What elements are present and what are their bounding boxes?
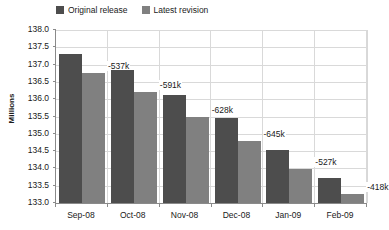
- x-axis: Sep-08Oct-08Nov-08Dec-08Jan-09Feb-09: [55, 203, 367, 230]
- y-tick-label: 138.0: [7, 24, 49, 35]
- bar-original-release: [318, 178, 341, 203]
- bar-original-release: [163, 95, 186, 203]
- x-tick-mark: [366, 203, 367, 207]
- x-axis-label: Sep-08: [55, 210, 107, 221]
- bar-group: -591k: [108, 30, 160, 203]
- legend-label-latest-revision: Latest revision: [154, 6, 209, 15]
- chart-legend: Original release Latest revision: [56, 3, 208, 17]
- bar-group: -418k: [315, 30, 367, 203]
- legend-swatch-latest-revision: [142, 6, 150, 14]
- y-tick-label: 137.5: [7, 41, 49, 52]
- bar-latest-revision: [186, 117, 209, 204]
- y-tick-label: 134.0: [7, 162, 49, 173]
- x-axis-label: Oct-08: [107, 210, 159, 221]
- y-tick-label: 136.5: [7, 76, 49, 87]
- bar-latest-revision: [289, 169, 312, 203]
- data-label: -418k: [366, 182, 389, 192]
- x-axis-label: Dec-08: [211, 210, 263, 221]
- legend-item-latest-revision: Latest revision: [142, 6, 209, 15]
- legend-label-original-release: Original release: [68, 6, 128, 15]
- legend-item-original-release: Original release: [56, 6, 128, 15]
- bar-latest-revision: [341, 194, 364, 203]
- x-axis-label: Feb-09: [314, 210, 366, 221]
- bar-group: -628k: [160, 30, 212, 203]
- bar-original-release: [266, 150, 289, 203]
- x-tick-mark: [159, 203, 160, 207]
- bar-latest-revision: [82, 73, 105, 203]
- x-tick-mark: [211, 203, 212, 207]
- group-separator: [366, 30, 367, 203]
- x-tick-mark: [107, 203, 108, 207]
- x-tick-mark: [55, 203, 56, 207]
- y-tick-label: 133.5: [7, 180, 49, 191]
- y-tick-label: 137.0: [7, 59, 49, 70]
- bar-original-release: [111, 70, 134, 203]
- bar-latest-revision: [134, 92, 157, 203]
- y-tick-label: 133.0: [7, 197, 49, 208]
- x-axis-label: Nov-08: [159, 210, 211, 221]
- bar-original-release: [215, 118, 238, 203]
- bar-group: -527k: [263, 30, 315, 203]
- bar-series-container: -537k-591k-628k-645k-527k-418k: [56, 30, 367, 203]
- x-tick-mark: [262, 203, 263, 207]
- x-axis-label: Jan-09: [262, 210, 314, 221]
- plot-right-edge: [367, 30, 368, 203]
- y-tick-label: 136.0: [7, 93, 49, 104]
- y-tick-label: 135.0: [7, 128, 49, 139]
- plot-area: 138.0137.5137.0136.5136.0135.5135.0134.5…: [55, 30, 367, 204]
- bar-group: -537k: [56, 30, 108, 203]
- bar-group: -645k: [212, 30, 264, 203]
- y-tick-label: 134.5: [7, 145, 49, 156]
- bar-latest-revision: [238, 141, 261, 203]
- x-tick-mark: [314, 203, 315, 207]
- y-tick-label: 135.5: [7, 111, 49, 122]
- legend-swatch-original-release: [56, 6, 64, 14]
- bar-original-release: [59, 54, 82, 203]
